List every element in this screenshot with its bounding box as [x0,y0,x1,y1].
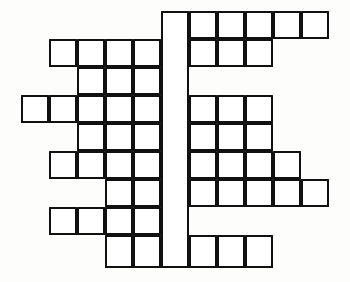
crossword-cell-r0-c10[interactable] [301,11,329,39]
crossword-cell-r3-c1[interactable] [49,95,77,123]
crossword-cell-r0-c9[interactable] [273,11,301,39]
crossword-cell-r6-c9[interactable] [273,179,301,207]
crossword-cell-r5-c7[interactable] [217,151,245,179]
crossword-cell-r5-c9[interactable] [273,151,301,179]
crossword-cell-r1-c1[interactable] [49,39,77,67]
crossword-central-bar[interactable] [161,11,189,268]
crossword-cell-r3-c3[interactable] [105,95,133,123]
crossword-cell-r7-c1[interactable] [49,207,77,235]
crossword-grid[interactable] [0,0,350,282]
crossword-cell-r4-c8[interactable] [245,123,273,151]
crossword-cell-r4-c7[interactable] [217,123,245,151]
crossword-cell-r5-c4[interactable] [133,151,161,179]
crossword-cell-r8-c6[interactable] [189,235,217,268]
crossword-cell-r3-c4[interactable] [133,95,161,123]
crossword-cell-r7-c3[interactable] [105,207,133,235]
crossword-cell-r1-c7[interactable] [217,39,245,67]
crossword-cell-r4-c4[interactable] [133,123,161,151]
crossword-cell-r5-c1[interactable] [49,151,77,179]
crossword-cell-r6-c6[interactable] [189,179,217,207]
crossword-puzzle [0,0,350,282]
crossword-cell-r0-c6[interactable] [189,11,217,39]
crossword-cell-r3-c8[interactable] [245,95,273,123]
crossword-cell-r0-c7[interactable] [217,11,245,39]
crossword-cell-r1-c4[interactable] [133,39,161,67]
crossword-cell-r6-c8[interactable] [245,179,273,207]
crossword-cell-r7-c2[interactable] [77,207,105,235]
crossword-cell-r3-c7[interactable] [217,95,245,123]
crossword-cell-r4-c3[interactable] [105,123,133,151]
crossword-cell-r6-c3[interactable] [105,179,133,207]
crossword-cell-r1-c8[interactable] [245,39,273,67]
crossword-cell-r8-c7[interactable] [217,235,245,268]
crossword-cell-r1-c6[interactable] [189,39,217,67]
crossword-cell-r4-c2[interactable] [77,123,105,151]
crossword-cell-r7-c4[interactable] [133,207,161,235]
crossword-cell-r5-c3[interactable] [105,151,133,179]
crossword-cell-r6-c7[interactable] [217,179,245,207]
crossword-cell-r3-c6[interactable] [189,95,217,123]
crossword-cell-r2-c3[interactable] [105,67,133,95]
crossword-cell-r8-c4[interactable] [133,235,161,268]
crossword-cell-r4-c6[interactable] [189,123,217,151]
crossword-cell-r5-c8[interactable] [245,151,273,179]
crossword-cell-r3-c0[interactable] [21,95,49,123]
crossword-cell-r1-c3[interactable] [105,39,133,67]
crossword-cell-r6-c4[interactable] [133,179,161,207]
crossword-cell-r2-c2[interactable] [77,67,105,95]
crossword-cell-r5-c6[interactable] [189,151,217,179]
crossword-cell-r8-c8[interactable] [245,235,273,268]
crossword-cell-r2-c4[interactable] [133,67,161,95]
crossword-cell-r5-c2[interactable] [77,151,105,179]
crossword-cell-r3-c2[interactable] [77,95,105,123]
crossword-cell-r6-c10[interactable] [301,179,329,207]
crossword-cell-r1-c2[interactable] [77,39,105,67]
crossword-cell-r0-c8[interactable] [245,11,273,39]
crossword-cell-r8-c3[interactable] [105,235,133,268]
